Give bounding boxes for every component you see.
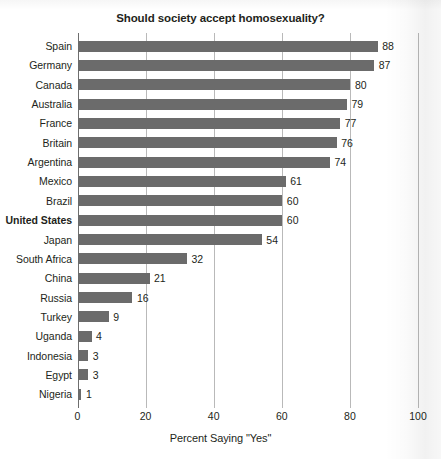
x-tick-label-100: 100: [398, 410, 438, 422]
x-tick-label-80: 80: [330, 410, 370, 422]
bar-category-label: Canada: [0, 79, 72, 91]
bar: [78, 118, 340, 129]
bar: [78, 311, 109, 322]
bar-category-label: Australia: [0, 98, 72, 110]
bar-value-label: 61: [290, 175, 302, 187]
bar-row: Uganda4: [0, 327, 441, 346]
bar-row: Argentina74: [0, 153, 441, 172]
bar-value-label: 54: [266, 234, 278, 246]
bar-category-label: Indonesia: [0, 350, 72, 362]
bar-row: Brazil60: [0, 192, 441, 211]
bar-value-label: 32: [191, 253, 203, 265]
bar: [78, 350, 88, 361]
bar-row: Indonesia3: [0, 347, 441, 366]
x-tick-label-40: 40: [194, 410, 234, 422]
bar-category-label: China: [0, 272, 72, 284]
bar-category-label: Nigeria: [0, 388, 72, 400]
bar-row: Egypt3: [0, 366, 441, 385]
bar: [78, 369, 88, 380]
bar-value-label: 3: [93, 350, 99, 362]
bar-value-label: 79: [351, 98, 363, 110]
bar: [78, 389, 81, 400]
bar: [78, 157, 330, 168]
x-tick-label-60: 60: [262, 410, 302, 422]
bar: [78, 137, 337, 148]
x-axis-tick-labels: 020406080100: [0, 410, 441, 424]
bar-category-label: Germany: [0, 59, 72, 71]
bar-value-label: 80: [355, 79, 367, 91]
bar-row: Japan54: [0, 231, 441, 250]
bar-category-label: France: [0, 117, 72, 129]
bar-category-label: Brazil: [0, 195, 72, 207]
bar: [78, 176, 286, 187]
bar-category-label: Mexico: [0, 175, 72, 187]
x-tick-label-0: 0: [58, 410, 98, 422]
bar-category-label: Japan: [0, 234, 72, 246]
bar-row: United States60: [0, 211, 441, 230]
bar-chart-plot-area: Spain88Germany87Canada80Australia79Franc…: [0, 33, 441, 408]
bar-row: Germany87: [0, 56, 441, 75]
bar: [78, 195, 282, 206]
bar-row: France77: [0, 114, 441, 133]
bar-category-label: Russia: [0, 292, 72, 304]
bar-category-label: United States: [0, 214, 72, 226]
bar-row: Britain76: [0, 134, 441, 153]
page-top-shading: [0, 0, 441, 10]
x-tick-label-20: 20: [126, 410, 166, 422]
bar-value-label: 16: [137, 292, 149, 304]
bar: [78, 41, 378, 52]
bar-value-label: 74: [334, 156, 346, 168]
bar-value-label: 88: [382, 40, 394, 52]
bar-row: Mexico61: [0, 172, 441, 191]
bar-row: Russia16: [0, 289, 441, 308]
bar-category-label: Britain: [0, 137, 72, 149]
chart-title: Should society accept homosexuality?: [0, 12, 441, 24]
bar-row: Canada80: [0, 76, 441, 95]
bar-row: China21: [0, 269, 441, 288]
bar-value-label: 1: [86, 388, 92, 400]
bar: [78, 99, 347, 110]
bar-value-label: 60: [287, 214, 299, 226]
bar: [78, 273, 150, 284]
x-axis-label: Percent Saying "Yes": [0, 432, 441, 444]
bar: [78, 292, 132, 303]
bar-category-label: Spain: [0, 40, 72, 52]
bar-category-label: South Africa: [0, 253, 72, 265]
bar-value-label: 9: [113, 311, 119, 323]
bar: [78, 79, 350, 90]
bar-category-label: Uganda: [0, 330, 72, 342]
bar-row: Spain88: [0, 37, 441, 56]
bar-value-label: 4: [96, 330, 102, 342]
bar-row: South Africa32: [0, 250, 441, 269]
bar-category-label: Egypt: [0, 369, 72, 381]
bar-category-label: Turkey: [0, 311, 72, 323]
bar: [78, 253, 187, 264]
bar: [78, 234, 262, 245]
bar: [78, 215, 282, 226]
bar: [78, 331, 92, 342]
bar-row: Nigeria1: [0, 385, 441, 404]
bar-value-label: 60: [287, 195, 299, 207]
bar-value-label: 76: [341, 137, 353, 149]
bar: [78, 60, 374, 71]
bar-value-label: 3: [93, 369, 99, 381]
bar-row: Australia79: [0, 95, 441, 114]
bar-value-label: 77: [345, 117, 357, 129]
bar-category-label: Argentina: [0, 156, 72, 168]
bar-value-label: 21: [154, 272, 166, 284]
bar-value-label: 87: [379, 59, 391, 71]
bar-row: Turkey9: [0, 308, 441, 327]
